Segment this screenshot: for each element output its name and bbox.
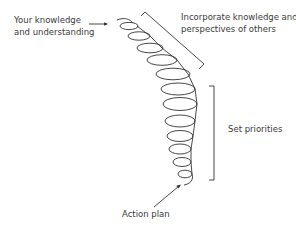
your-knowledge-line2: and understanding <box>14 26 94 38</box>
incorporate-line2: perspectives of others <box>181 23 296 35</box>
your-knowledge-label: Your knowledge and understanding <box>14 14 94 38</box>
incorporate-label: Incorporate knowledge and perspectives o… <box>181 11 296 35</box>
action-plan-label: Action plan <box>122 208 170 220</box>
incorporate-line1: Incorporate knowledge and <box>181 11 296 23</box>
priorities-bracket <box>209 86 214 180</box>
set-priorities-label: Set priorities <box>228 123 282 135</box>
your-knowledge-line1: Your knowledge <box>14 14 94 26</box>
action-plan-arrow <box>154 186 179 207</box>
